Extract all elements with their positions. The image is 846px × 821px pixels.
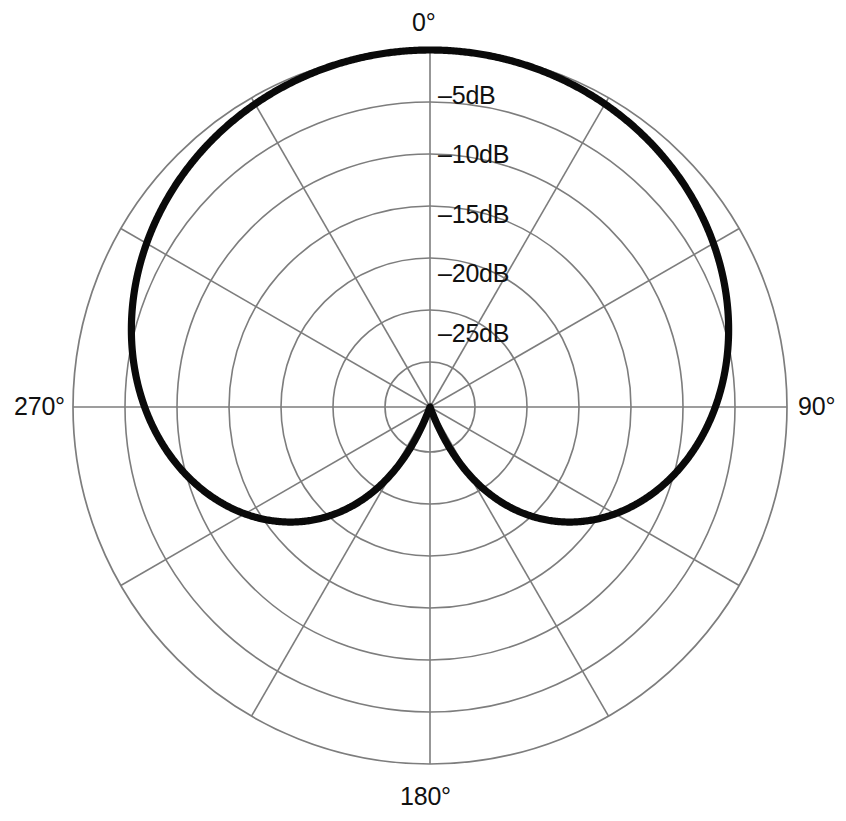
grid-spoke-120	[430, 407, 739, 586]
angle-label-270: 270°	[14, 392, 65, 421]
angle-label-0: 0°	[412, 8, 436, 37]
ring-label-minus-20db: –20dB	[438, 259, 509, 288]
ring-label-minus-10db: –10dB	[438, 140, 509, 169]
polar-plot-figure: 0° 90° 180° 270° –5dB –10dB –15dB –20dB …	[0, 0, 846, 821]
angle-label-180: 180°	[400, 782, 451, 811]
polar-chart-svg	[0, 0, 846, 821]
ring-label-minus-15db: –15dB	[438, 200, 509, 229]
ring-label-minus-25db: –25dB	[438, 319, 509, 348]
angle-label-90: 90°	[798, 392, 835, 421]
grid-spoke-300	[121, 229, 430, 408]
ring-label-minus-5db: –5dB	[438, 81, 496, 110]
grid-spoke-330	[252, 98, 431, 407]
grid-spoke-240	[121, 407, 430, 586]
